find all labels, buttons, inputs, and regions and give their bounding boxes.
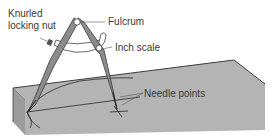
label-knurled: Knurled: [8, 8, 42, 19]
scale-clamp-icon: [96, 45, 102, 51]
fulcrum-pivot-icon: [74, 19, 80, 25]
label-inch-scale: Inch scale: [115, 42, 160, 53]
knurled-nut-icon: [47, 39, 53, 45]
label-fulcrum: Fulcrum: [108, 16, 144, 27]
label-needle-points: Needle points: [144, 88, 205, 99]
label-locking-nut: locking nut: [8, 20, 56, 31]
dividers-diagram: Knurled locking nut Fulcrum Inch scale N…: [0, 0, 273, 138]
